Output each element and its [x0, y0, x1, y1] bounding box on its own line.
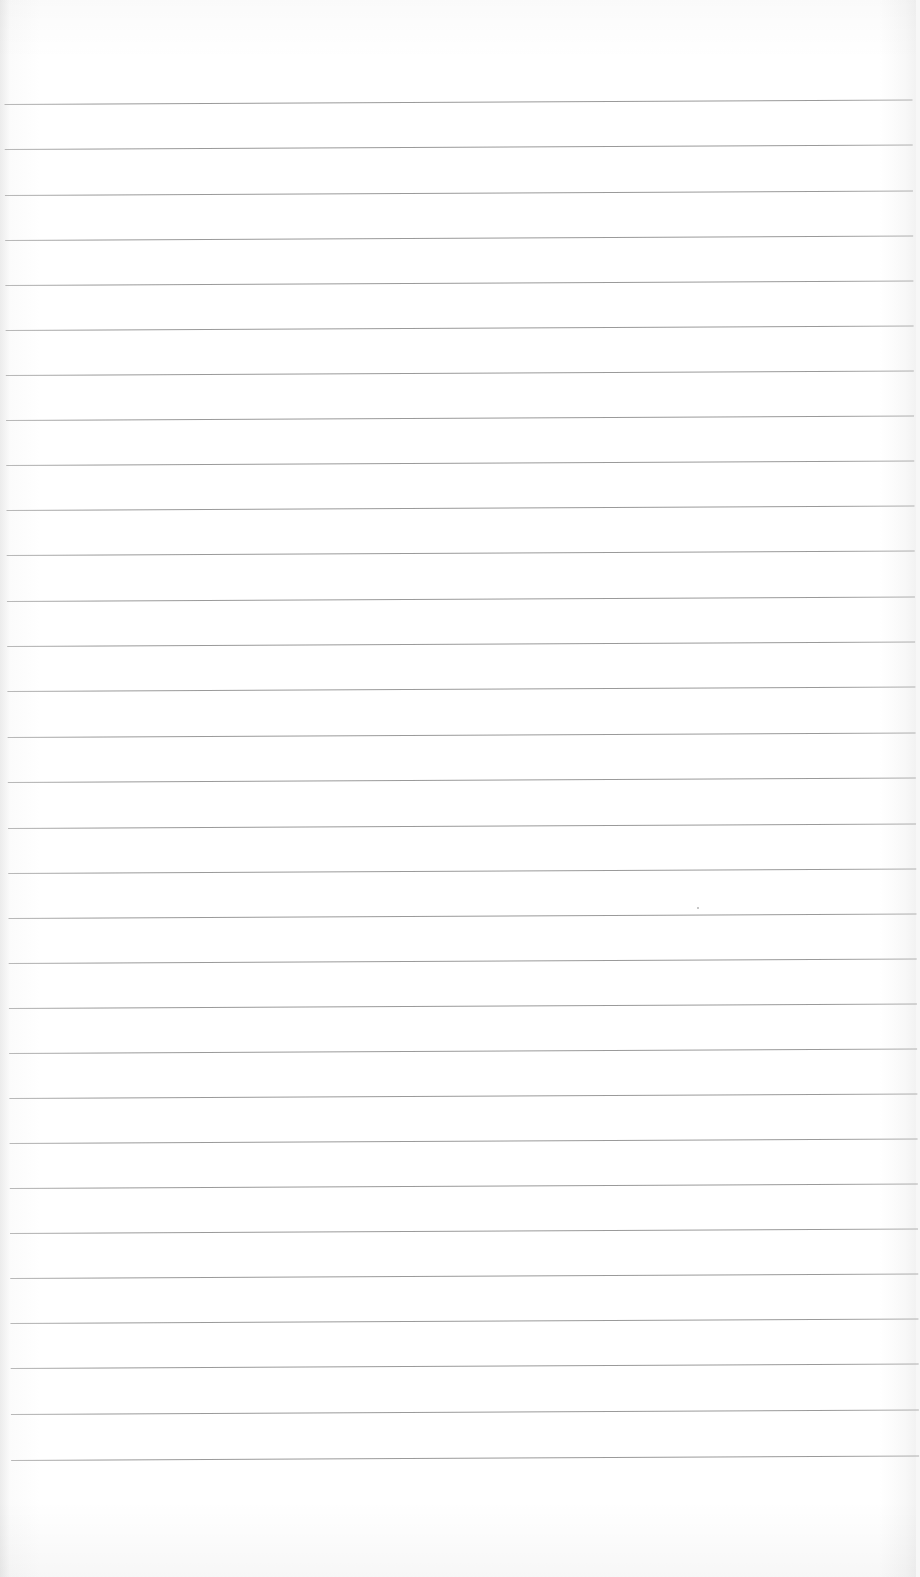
ruled-line	[6, 326, 914, 332]
paper-speck	[697, 907, 699, 909]
ruled-line	[8, 869, 916, 875]
ruled-line	[11, 1364, 919, 1370]
ruled-line	[8, 914, 916, 920]
ruled-line	[10, 1319, 918, 1325]
ruled-line	[5, 281, 913, 287]
ruled-line	[6, 506, 914, 512]
ruled-line	[8, 778, 916, 784]
ruled-line	[9, 1094, 917, 1100]
ruled-line	[5, 100, 913, 106]
ruled-line	[10, 1139, 918, 1145]
ruled-line	[9, 1004, 917, 1010]
ruled-line	[8, 824, 916, 830]
ruled-line	[5, 145, 913, 151]
ruled-line	[10, 1184, 918, 1190]
ruled-line	[6, 371, 914, 377]
ruled-line	[7, 642, 915, 648]
ruled-line	[10, 1274, 918, 1280]
ruled-line	[7, 687, 915, 693]
ruled-line	[10, 1229, 918, 1235]
ruled-line	[9, 959, 917, 965]
ruled-line	[7, 597, 915, 603]
ruled-line	[6, 461, 914, 467]
ruled-lines	[4, 0, 920, 1577]
ruled-line	[11, 1456, 919, 1462]
ruled-line	[5, 236, 913, 242]
ruled-line	[8, 733, 916, 739]
ruled-line	[5, 191, 913, 197]
ruled-line	[7, 551, 915, 557]
ruled-line	[11, 1410, 919, 1416]
ruled-line	[6, 416, 914, 422]
ruled-line	[9, 1049, 917, 1055]
